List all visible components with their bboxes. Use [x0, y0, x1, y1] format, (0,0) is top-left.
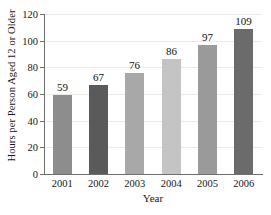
gridline — [45, 94, 262, 95]
x-tick-label: 2001 — [52, 178, 73, 189]
x-tick-label: 2003 — [124, 178, 145, 189]
bar: 109 — [234, 29, 253, 174]
bar: 59 — [53, 95, 72, 174]
bar-value-label: 86 — [166, 45, 177, 57]
y-tick-label: 60 — [28, 89, 39, 100]
y-tick-label: 80 — [28, 62, 39, 73]
plot-area: 020406080100120 5967768697109 2001200220… — [44, 14, 262, 174]
y-tick-label: 120 — [22, 9, 38, 20]
x-axis-title: Year — [44, 192, 262, 204]
bar-value-label: 59 — [57, 81, 68, 93]
gridline — [45, 41, 262, 42]
y-tick-label: 40 — [28, 115, 39, 126]
bar-value-label: 67 — [93, 71, 104, 83]
y-tick-label: 0 — [33, 169, 38, 180]
gridline — [45, 147, 262, 148]
bar-value-label: 97 — [202, 31, 213, 43]
x-tick-label: 2006 — [233, 178, 254, 189]
gridline — [45, 121, 262, 122]
bar-value-label: 109 — [235, 15, 252, 27]
y-tick-label: 100 — [22, 35, 38, 46]
y-axis-title: Hours per Person Aged 12 or Older — [6, 1, 17, 171]
bar: 76 — [125, 73, 144, 174]
y-tick-label: 20 — [28, 142, 39, 153]
x-tick-label: 2002 — [88, 178, 109, 189]
x-tick-label: 2004 — [161, 178, 182, 189]
bar: 67 — [89, 85, 108, 174]
gridline — [45, 67, 262, 68]
bar: 86 — [162, 59, 181, 174]
y-axis-line — [44, 14, 45, 175]
bar: 97 — [198, 45, 217, 174]
x-axis-line — [44, 174, 263, 175]
x-tick-label: 2005 — [197, 178, 218, 189]
gridline — [45, 14, 262, 15]
bar-chart: Hours per Person Aged 12 or Older 020406… — [0, 0, 271, 215]
bar-value-label: 76 — [129, 59, 140, 71]
